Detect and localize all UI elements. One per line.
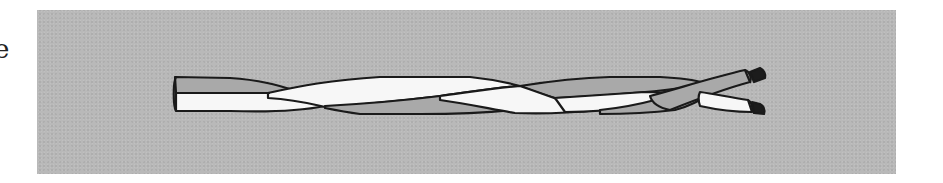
conductor-end-lower	[752, 102, 764, 114]
wire-white-segment	[699, 92, 753, 112]
twisted-pair-cable-illustration	[0, 0, 943, 183]
conductor-end-upper	[750, 68, 765, 82]
